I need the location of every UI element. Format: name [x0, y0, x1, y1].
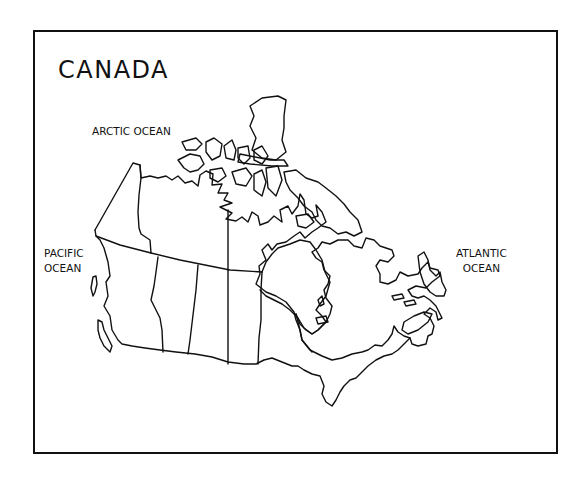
border-alberta-saskatchewan — [188, 265, 198, 354]
mainland-coastline — [95, 163, 442, 360]
lake-nipigon — [316, 316, 328, 324]
southampton-island — [296, 214, 314, 228]
canada-outline-map — [0, 0, 581, 484]
border-bc-alberta — [151, 257, 163, 352]
arctic-island-victoria — [178, 154, 204, 172]
arctic-island-7 — [254, 170, 266, 196]
arctic-island-4 — [254, 146, 268, 164]
border-60th-parallel — [96, 236, 262, 272]
anticosti — [392, 294, 404, 300]
arctic-island-8 — [266, 166, 282, 196]
haida-gwaii — [91, 276, 97, 296]
southern-border — [95, 230, 410, 406]
pei — [404, 300, 416, 306]
arctic-island-6 — [232, 168, 252, 186]
arctic-island-banks — [182, 138, 202, 150]
baffin-island — [284, 170, 362, 236]
nova-scotia — [402, 312, 432, 334]
newfoundland — [418, 252, 446, 296]
arctic-island-1 — [206, 138, 222, 160]
ellesmere-island — [250, 96, 286, 160]
vancouver-island — [98, 320, 112, 352]
border-yukon-nwt — [138, 165, 151, 253]
lake-winnipeg — [318, 296, 324, 306]
hudson-bay-coast — [260, 240, 330, 334]
arctic-island-2 — [224, 140, 236, 160]
